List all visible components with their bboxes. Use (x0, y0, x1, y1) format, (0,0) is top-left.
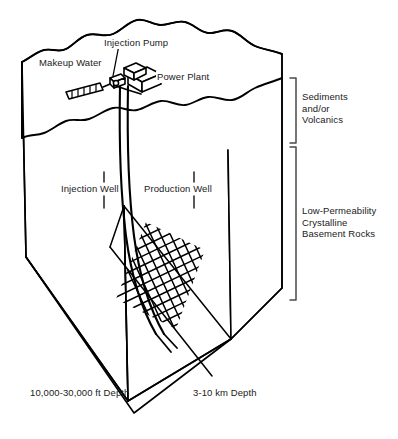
label-depth-metric: 3-10 km Depth (193, 387, 257, 399)
bracket-basement (290, 147, 296, 300)
label-injection-well: Injection Well (60, 183, 120, 195)
label-depth-imperial: 10,000-30,000 ft Depth (30, 387, 129, 399)
label-stratum-basement: Low-Permeability Crystalline Basement Ro… (302, 205, 376, 240)
block-right-face (228, 78, 282, 339)
label-makeup-water: Makeup Water (38, 57, 103, 69)
label-production-well: Production Well (143, 183, 213, 195)
bracket-sediments (290, 78, 296, 143)
label-stratum-sediments: Sediments and/or Volcanics (302, 91, 348, 126)
label-power-plant: Power Plant (156, 71, 210, 83)
label-injection-pump: Injection Pump (103, 37, 169, 49)
diagram-canvas: Makeup Water Injection Pump Power Plant … (0, 0, 398, 439)
